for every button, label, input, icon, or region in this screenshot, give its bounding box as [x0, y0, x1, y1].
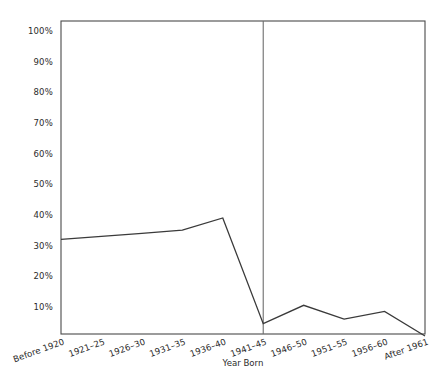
y-axis-tick-label: 90% [34, 57, 54, 67]
y-axis-tick-label: 70% [34, 118, 54, 128]
y-axis-tick-label: 40% [34, 210, 54, 220]
y-axis-tick-label: 50% [34, 179, 54, 189]
chart-background [0, 0, 445, 384]
y-axis-tick-label: 100% [28, 26, 53, 36]
y-axis-tick-label: 80% [34, 87, 54, 97]
line-chart: 100%90%80%70%60%50%40%30%20%10% Before 1… [0, 0, 445, 384]
y-axis-tick-label: 30% [34, 241, 54, 251]
x-axis-title: Year Born [222, 358, 264, 368]
y-axis-tick-label: 20% [34, 271, 54, 281]
y-axis-tick-label: 60% [34, 149, 54, 159]
chart-canvas: 100%90%80%70%60%50%40%30%20%10% Before 1… [0, 0, 445, 384]
y-axis-tick-label: 10% [34, 302, 54, 312]
